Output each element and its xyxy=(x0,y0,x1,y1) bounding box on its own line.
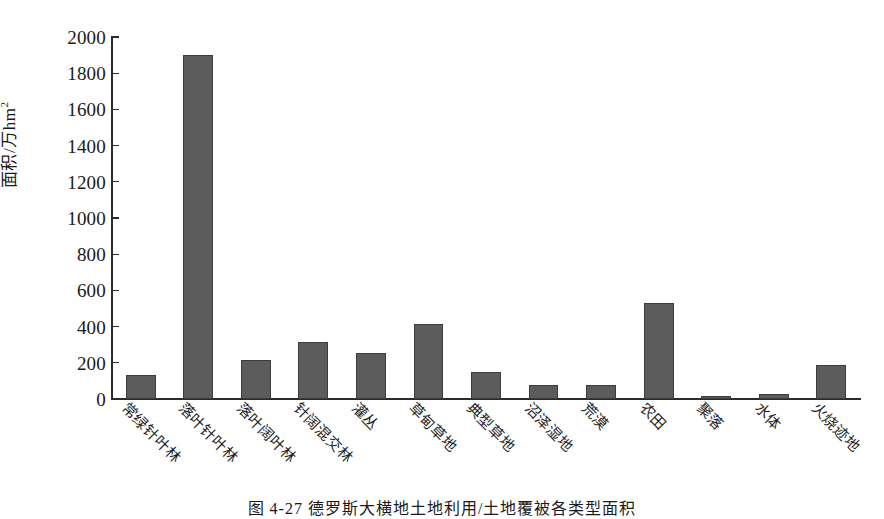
bar xyxy=(586,385,616,399)
x-axis-category-label: 水体 xyxy=(751,401,784,434)
y-axis-title-text: 面积/万hm xyxy=(0,108,19,188)
y-axis-tick-label: 600 xyxy=(40,281,106,300)
figure-caption: 图 4-27 德罗斯大横地土地利用/土地覆被各类型面积 xyxy=(0,499,884,519)
bar xyxy=(356,353,386,399)
bar-series xyxy=(112,37,860,399)
bar xyxy=(241,360,271,399)
bar xyxy=(414,324,444,399)
y-axis-title-superscript: 2 xyxy=(0,102,10,108)
x-axis-category-label: 常绿针叶林 xyxy=(118,401,183,466)
bar xyxy=(701,396,731,399)
x-axis-category-label: 落叶针叶林 xyxy=(176,401,241,466)
x-axis-category-label: 草甸草地 xyxy=(406,401,460,455)
x-axis-category-label: 聚落 xyxy=(694,401,727,434)
bar xyxy=(471,372,501,399)
x-axis-category-label: 典型草地 xyxy=(463,401,517,455)
bar xyxy=(529,385,559,399)
y-axis-tick-label: 1200 xyxy=(40,173,106,192)
x-axis-category-labels: 常绿针叶林落叶针叶林落叶阔叶林针阔混交林灌丛草甸草地典型草地沼泽湿地荒漠农田聚落… xyxy=(112,401,860,511)
y-axis-tick-label: 2000 xyxy=(40,28,106,47)
bar xyxy=(298,342,328,399)
x-axis-category-label: 农田 xyxy=(636,401,669,434)
y-axis-tick-label: 1800 xyxy=(40,64,106,83)
y-axis-tick-label: 1400 xyxy=(40,137,106,156)
y-axis-tick-labels: 2000180016001400120010008006004002000 xyxy=(34,0,106,516)
x-axis-category-label: 火烧迹地 xyxy=(809,401,863,455)
y-axis-tick-label: 0 xyxy=(40,390,106,409)
x-axis-category-label: 灌丛 xyxy=(348,401,381,434)
x-axis-category-label: 针阔混交林 xyxy=(291,401,356,466)
bar xyxy=(644,303,674,399)
x-axis-category-label: 荒漠 xyxy=(578,401,611,434)
y-axis-tick-label: 1600 xyxy=(40,100,106,119)
y-axis-tick-label: 400 xyxy=(40,318,106,337)
x-axis-category-label: 落叶阔叶林 xyxy=(233,401,298,466)
bar xyxy=(183,55,213,399)
bar xyxy=(126,375,156,399)
y-axis-tick-label: 1000 xyxy=(40,209,106,228)
x-axis-category-label: 沼泽湿地 xyxy=(521,401,575,455)
y-axis-tick-label: 200 xyxy=(40,354,106,373)
y-axis-title: 面积/万hm2 xyxy=(0,102,20,188)
bar xyxy=(816,365,846,399)
bar xyxy=(759,394,789,399)
y-axis-tick-label: 800 xyxy=(40,245,106,264)
